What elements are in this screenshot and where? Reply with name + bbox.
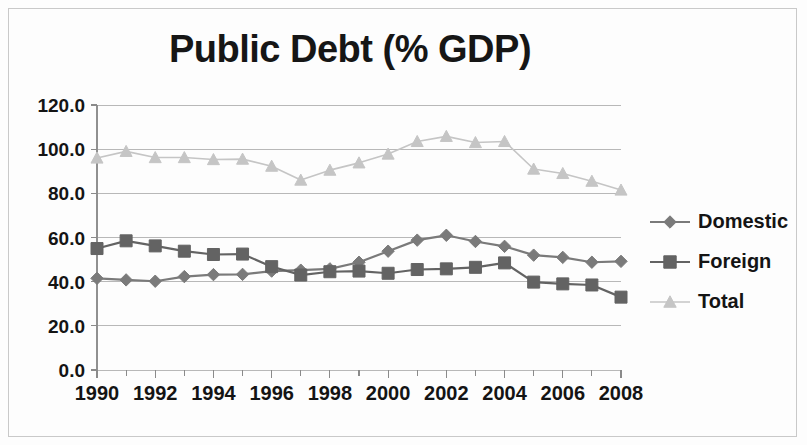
legend-label-domestic: Domestic	[698, 210, 788, 232]
y-tick-label-60: 60.0	[48, 228, 85, 249]
x-tick-label-2002: 2002	[424, 382, 469, 404]
x-axis-labels: 1990199219941996199820002002200420062008	[75, 382, 644, 404]
data-point-domestic-2006	[557, 251, 569, 263]
data-point-domestic-2004	[498, 240, 510, 252]
public-debt-chart: Public Debt (% GDP) 0.020.040.060.080.01…	[0, 0, 807, 445]
tick-marks	[91, 105, 621, 378]
y-tick-label-0: 0.0	[59, 360, 85, 381]
data-point-foreign-1998	[324, 266, 336, 278]
data-point-foreign-2001	[411, 264, 423, 276]
data-point-foreign-2003	[469, 261, 481, 273]
data-point-domestic-2002	[440, 229, 452, 241]
data-point-foreign-2007	[586, 279, 598, 291]
data-point-foreign-2002	[440, 263, 452, 275]
data-point-domestic-2000	[382, 245, 394, 257]
legend-label-foreign: Foreign	[698, 250, 771, 272]
y-tick-label-40: 40.0	[48, 272, 85, 293]
x-tick-label-1992: 1992	[133, 382, 178, 404]
data-point-foreign-2004	[499, 257, 511, 269]
data-point-domestic-2005	[527, 249, 539, 261]
y-tick-label-100: 100.0	[37, 139, 85, 160]
chart-legend: DomesticForeignTotal	[650, 210, 788, 312]
series-foreign	[91, 235, 627, 303]
y-tick-label-20: 20.0	[48, 316, 85, 337]
legend-label-total: Total	[698, 290, 744, 312]
x-tick-label-1990: 1990	[75, 382, 120, 404]
x-tick-label-1998: 1998	[308, 382, 353, 404]
legend-item-domestic[interactable]: Domestic	[650, 210, 788, 232]
data-point-domestic-1991	[120, 274, 132, 286]
legend-item-total[interactable]: Total	[650, 290, 744, 312]
data-point-foreign-1994	[207, 249, 219, 261]
data-point-domestic-2001	[411, 234, 423, 246]
y-tick-label-120: 120.0	[37, 95, 85, 116]
x-tick-label-2004: 2004	[482, 382, 527, 404]
data-point-domestic-2008	[615, 255, 627, 267]
data-point-domestic-1994	[207, 268, 219, 280]
x-tick-label-1994: 1994	[191, 382, 236, 404]
data-point-total-2002	[440, 130, 452, 141]
series-total	[91, 130, 627, 195]
data-point-foreign-1990	[91, 243, 103, 255]
data-point-foreign-1991	[120, 235, 132, 247]
x-tick-label-2008: 2008	[599, 382, 644, 404]
y-tick-label-80: 80.0	[48, 183, 85, 204]
data-point-foreign-1993	[178, 245, 190, 257]
x-tick-label-2000: 2000	[366, 382, 411, 404]
data-point-total-1991	[120, 145, 132, 156]
data-point-foreign-1999	[353, 265, 365, 277]
data-point-foreign-1997	[295, 269, 307, 281]
legend-item-foreign[interactable]: Foreign	[650, 250, 771, 272]
y-axis-labels: 0.020.040.060.080.0100.0120.0	[37, 95, 85, 381]
data-point-foreign-2005	[528, 276, 540, 288]
data-point-foreign-1995	[237, 248, 249, 260]
data-point-domestic-1990	[91, 272, 103, 284]
data-point-foreign-1996	[266, 261, 278, 273]
data-point-foreign-1992	[149, 240, 161, 252]
x-tick-label-2006: 2006	[541, 382, 586, 404]
data-point-total-2000	[382, 148, 394, 159]
data-point-domestic-1995	[236, 268, 248, 280]
gridlines	[97, 105, 621, 370]
x-tick-label-1996: 1996	[249, 382, 294, 404]
data-point-domestic-2007	[586, 256, 598, 268]
data-point-foreign-2000	[382, 267, 394, 279]
data-point-domestic-1992	[149, 275, 161, 287]
data-point-domestic-1993	[178, 270, 190, 282]
data-point-foreign-2008	[615, 291, 627, 303]
data-point-total-1997	[295, 174, 307, 185]
plot-area: 0.020.040.060.080.0100.0120.0 1990199219…	[0, 0, 807, 445]
diamond-icon	[664, 216, 676, 228]
data-series	[91, 130, 627, 303]
data-point-foreign-2006	[557, 278, 569, 290]
square-icon	[664, 256, 676, 268]
